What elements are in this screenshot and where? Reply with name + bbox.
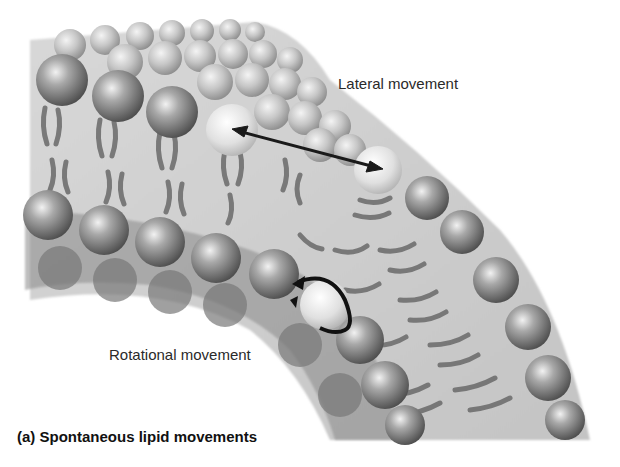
rotational-movement-label: Rotational movement [109, 346, 251, 363]
lipid-bilayer-illustration [0, 0, 620, 467]
figure-caption: (a) Spontaneous lipid movements [17, 428, 257, 445]
lateral-movement-label: Lateral movement [338, 75, 458, 92]
